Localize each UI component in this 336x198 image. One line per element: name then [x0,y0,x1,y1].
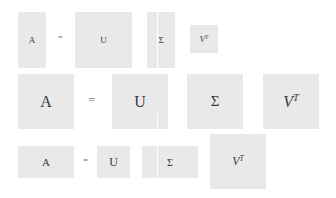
matrix-sigma: Σ [147,12,175,68]
matrix-a: A [18,12,46,68]
matrix-vt-label: VT [283,92,299,111]
matrix-a-label: A [29,35,36,45]
matrix-u: U [75,12,132,68]
equals-sign: = [58,33,63,42]
matrix-v-transpose: VT [263,74,319,129]
matrix-v-transpose: VT [210,134,266,189]
matrix-vt-label: VT [200,34,209,44]
equals-sign: = [83,155,88,165]
equals-sign: = [88,92,95,108]
matrix-a-label: A [42,156,50,168]
matrix-u: U [97,146,130,178]
matrix-a-label: A [40,93,52,111]
matrix-vt-label: VT [232,154,244,169]
partition-line [157,146,158,178]
matrix-sigma: Σ [142,146,198,178]
matrix-sigma-label: Σ [211,93,220,110]
matrix-sigma: Σ [187,74,243,129]
matrix-v-transpose: VT [190,25,218,53]
matrix-u-label: U [109,155,118,170]
partition-line [157,12,158,68]
matrix-sigma-label: Σ [158,35,163,45]
matrix-u-label: U [100,35,107,45]
partition-line [157,114,158,129]
matrix-sigma-label: Σ [167,157,173,168]
matrix-u: U [112,74,168,129]
matrix-u-label: U [134,93,146,111]
matrix-a: A [18,146,74,178]
matrix-a: A [18,74,74,129]
